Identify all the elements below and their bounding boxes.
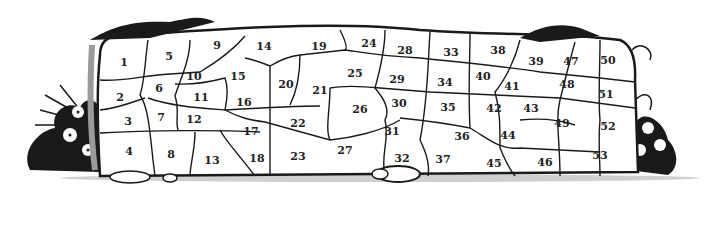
stone-number-2: 2 bbox=[116, 91, 124, 104]
stone-number-12: 12 bbox=[186, 113, 201, 126]
stone-number-42: 42 bbox=[486, 102, 501, 115]
stone-number-37: 37 bbox=[435, 153, 450, 166]
stone-number-27: 27 bbox=[337, 144, 352, 157]
stone-number-45: 45 bbox=[486, 157, 501, 170]
stone-number-41: 41 bbox=[504, 80, 519, 93]
stone-number-31: 31 bbox=[384, 125, 399, 138]
stone-number-33: 33 bbox=[443, 46, 458, 59]
stone-number-46: 46 bbox=[537, 156, 552, 169]
stone-number-20: 20 bbox=[278, 78, 293, 91]
stone-number-32: 32 bbox=[394, 152, 409, 165]
stone-number-9: 9 bbox=[213, 39, 221, 52]
stone-number-16: 16 bbox=[236, 96, 251, 109]
stone-number-13: 13 bbox=[204, 154, 219, 167]
stone-number-49: 49 bbox=[554, 117, 569, 130]
stone-number-47: 47 bbox=[563, 55, 578, 68]
stone-number-5: 5 bbox=[165, 50, 173, 63]
stone-number-21: 21 bbox=[312, 84, 327, 97]
pebble bbox=[372, 169, 388, 179]
stone-number-8: 8 bbox=[167, 148, 175, 161]
stone-number-44: 44 bbox=[500, 129, 515, 142]
stone-number-4: 4 bbox=[125, 145, 133, 158]
stone-number-11: 11 bbox=[193, 91, 208, 104]
stone-number-23: 23 bbox=[290, 150, 305, 163]
stone-number-26: 26 bbox=[352, 103, 367, 116]
stone-number-18: 18 bbox=[249, 152, 264, 165]
stone-number-25: 25 bbox=[347, 67, 362, 80]
stone-number-30: 30 bbox=[391, 97, 406, 110]
stone-number-38: 38 bbox=[490, 44, 505, 57]
stone-number-3: 3 bbox=[124, 115, 132, 128]
stone-number-43: 43 bbox=[523, 102, 538, 115]
stone-number-34: 34 bbox=[437, 76, 452, 89]
stone-number-10: 10 bbox=[186, 70, 201, 83]
stone-number-35: 35 bbox=[440, 101, 455, 114]
stone-number-1: 1 bbox=[120, 56, 128, 69]
stone-number-6: 6 bbox=[155, 82, 163, 95]
pebble bbox=[163, 174, 177, 182]
stone-number-53: 53 bbox=[592, 149, 607, 162]
stone-number-22: 22 bbox=[290, 117, 305, 130]
stone-number-29: 29 bbox=[389, 73, 404, 86]
stone-number-19: 19 bbox=[311, 40, 326, 53]
stone-number-50: 50 bbox=[600, 54, 615, 67]
pebble bbox=[110, 171, 150, 183]
stone-number-52: 52 bbox=[600, 120, 615, 133]
stone-number-48: 48 bbox=[559, 78, 574, 91]
stone-number-7: 7 bbox=[157, 111, 165, 124]
stone-number-51: 51 bbox=[598, 88, 613, 101]
stone-number-36: 36 bbox=[454, 130, 469, 143]
stone-number-28: 28 bbox=[397, 44, 412, 57]
stone-number-24: 24 bbox=[361, 37, 376, 50]
stone-number-40: 40 bbox=[475, 70, 490, 83]
stone-number-39: 39 bbox=[528, 55, 543, 68]
stone-number-17: 17 bbox=[243, 125, 258, 138]
stone-number-14: 14 bbox=[256, 40, 271, 53]
stone-number-15: 15 bbox=[230, 70, 245, 83]
